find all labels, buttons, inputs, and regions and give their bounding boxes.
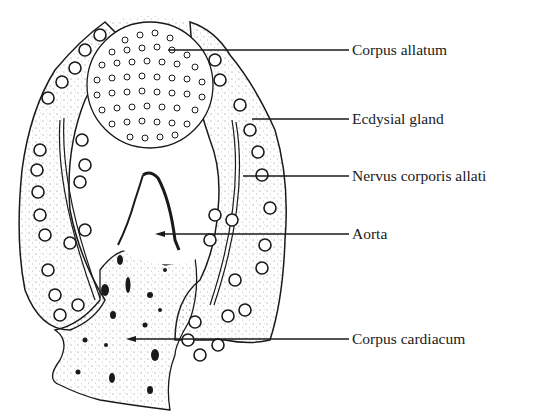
label-aorta: Aorta [352,226,387,242]
aorta-shape [100,145,210,265]
label-ecdysial-gland: Ecdysial gland [352,111,444,127]
label-nervus-corporis-allati: Nervus corporis allati [352,168,486,184]
corpus-allatum-shape [87,22,213,148]
label-corpus-allatum: Corpus allatum [352,42,447,58]
anatomical-drawing [0,0,533,418]
label-corpus-cardiacum: Corpus cardiacum [352,331,465,347]
